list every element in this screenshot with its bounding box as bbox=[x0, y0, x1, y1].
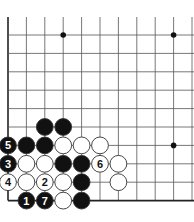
move-number-label: 4 bbox=[5, 176, 12, 188]
move-number-label: 7 bbox=[42, 195, 48, 207]
white-stone-icon bbox=[110, 174, 127, 191]
black-stone-icon bbox=[36, 137, 53, 154]
black-stone: 7 bbox=[36, 192, 53, 209]
star-point-icon bbox=[60, 32, 66, 38]
black-stone bbox=[18, 137, 35, 154]
white-stone: 4 bbox=[0, 174, 16, 191]
move-number-label: 1 bbox=[23, 195, 29, 207]
white-stone bbox=[18, 155, 35, 172]
black-stone-icon bbox=[55, 119, 72, 136]
white-stone bbox=[18, 174, 35, 191]
black-stone bbox=[55, 119, 72, 136]
black-stone-icon bbox=[73, 174, 90, 191]
black-stone bbox=[36, 119, 53, 136]
black-stone bbox=[73, 174, 90, 191]
grid-lines bbox=[8, 17, 194, 201]
white-stone-icon bbox=[55, 174, 72, 191]
move-number-label: 3 bbox=[5, 158, 11, 170]
black-stone-icon bbox=[73, 155, 90, 172]
black-stone-icon bbox=[55, 155, 72, 172]
white-stone-icon bbox=[55, 192, 72, 209]
stones: 5364217 bbox=[0, 119, 127, 209]
black-stone: 3 bbox=[0, 155, 16, 172]
white-stone-icon bbox=[92, 137, 109, 154]
black-stone: 5 bbox=[0, 137, 16, 154]
move-number-label: 2 bbox=[42, 176, 48, 188]
white-stone-icon bbox=[110, 155, 127, 172]
white-stone bbox=[73, 137, 90, 154]
star-point-icon bbox=[171, 32, 177, 38]
white-stone-icon bbox=[55, 137, 72, 154]
white-stone bbox=[55, 192, 72, 209]
white-stone: 2 bbox=[36, 174, 53, 191]
white-stone bbox=[55, 137, 72, 154]
star-point-icon bbox=[171, 143, 177, 149]
white-stone bbox=[110, 155, 127, 172]
black-stone bbox=[73, 192, 90, 209]
move-number-label: 6 bbox=[97, 158, 103, 170]
black-stone bbox=[73, 155, 90, 172]
white-stone: 6 bbox=[92, 155, 109, 172]
black-stone: 1 bbox=[18, 192, 35, 209]
black-stone-icon bbox=[18, 137, 35, 154]
black-stone bbox=[36, 137, 53, 154]
white-stone bbox=[92, 137, 109, 154]
white-stone bbox=[55, 174, 72, 191]
white-stone-icon bbox=[36, 155, 53, 172]
white-stone-icon bbox=[18, 155, 35, 172]
go-board: 5364217 bbox=[0, 0, 194, 222]
white-stone-icon bbox=[18, 174, 35, 191]
white-stone bbox=[36, 155, 53, 172]
black-stone-icon bbox=[73, 192, 90, 209]
black-stone bbox=[55, 155, 72, 172]
white-stone-icon bbox=[73, 137, 90, 154]
move-number-label: 5 bbox=[5, 139, 11, 151]
black-stone-icon bbox=[36, 119, 53, 136]
white-stone bbox=[110, 174, 127, 191]
